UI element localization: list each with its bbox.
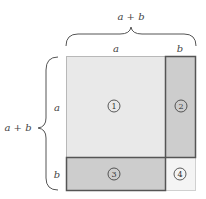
left-brace-label: a + b [4, 122, 31, 133]
side-label-a: a [54, 102, 60, 113]
svg-text:3: 3 [111, 170, 116, 179]
top-label-a: a [113, 43, 119, 54]
square-of-sum-diagram: a + b a b a + b a b 1 2 3 4 [0, 0, 206, 199]
side-label-b: b [54, 169, 60, 180]
svg-text:2: 2 [178, 102, 183, 111]
svg-text:1: 1 [111, 102, 116, 111]
svg-text:4: 4 [177, 170, 182, 179]
top-brace-label: a + b [117, 11, 144, 22]
top-label-b: b [177, 43, 183, 54]
